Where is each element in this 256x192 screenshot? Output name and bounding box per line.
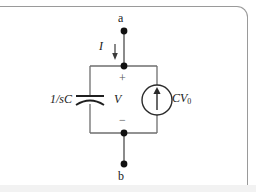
figure-page: a b I V + − 1/sC CV0	[0, 0, 256, 192]
circuit-diagram-canvas	[0, 0, 256, 192]
polarity-minus-label: −	[119, 114, 126, 126]
current-label: I	[99, 40, 103, 52]
current-source-label-subscript: 0	[187, 97, 191, 106]
node-bottom-junction	[121, 130, 128, 137]
current-source-label-main: CV	[172, 91, 187, 105]
figure-bottom-band	[0, 185, 256, 192]
terminal-a-label: a	[118, 12, 123, 24]
capacitor-impedance-label: 1/sC	[50, 93, 72, 105]
node-top-junction	[121, 63, 128, 70]
node-terminal-b	[121, 161, 128, 168]
polarity-plus-label: +	[119, 72, 126, 84]
current-arrow-head	[112, 53, 118, 60]
terminal-b-label: b	[118, 170, 124, 182]
node-terminal-a	[121, 28, 128, 35]
voltage-label: V	[114, 93, 121, 105]
current-source-label: CV0	[172, 92, 191, 106]
